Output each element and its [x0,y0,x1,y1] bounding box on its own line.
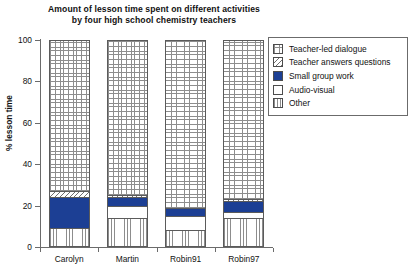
bar-segment [165,208,206,216]
bar-martin [107,40,148,247]
bar-robin97 [223,40,264,247]
legend-item: Teacher answers questions [273,56,403,70]
bar-segment [49,197,90,228]
bar-segment [107,218,148,247]
x-axis-tick [157,248,158,252]
y-axis-tick-label: 60 [6,118,32,128]
legend-swatch-white [273,85,283,95]
chart-title: Amount of lesson time spent on different… [24,4,284,25]
legend-label: Other [289,98,310,108]
bar-segment [107,40,148,195]
legend-swatch-vertical-lines [273,98,283,108]
legend-label: Small group work [289,71,354,81]
chart-legend: Teacher-led dialogueTeacher answers ques… [268,37,408,116]
x-axis-tick [98,248,99,252]
legend-label: Teacher-led dialogue [289,44,367,54]
x-axis-tick [273,248,274,252]
legend-item: Audio-visual [273,83,403,97]
chart-root: Amount of lesson time spent on different… [0,0,411,270]
bar-segment [49,228,90,247]
x-axis-label-robin97: Robin97 [228,254,259,264]
bar-robin91 [165,40,206,247]
legend-item: Other [273,96,403,110]
x-axis-tick [40,248,41,252]
bar-segment [165,216,206,230]
x-axis-tick [215,248,216,252]
y-axis-tick-label: 100 [6,35,32,45]
y-axis-tick-label: 40 [6,159,32,169]
bar-segment [49,191,90,197]
bar-segment [223,201,264,211]
bar-segment [223,212,264,218]
legend-item: Teacher-led dialogue [273,42,403,56]
bar-carolyn [49,40,90,247]
x-axis-label-carolyn: Carolyn [55,254,84,264]
chart-title-line-2: by four high school chemistry teachers [24,15,284,26]
legend-swatch-crosshatch-grid [273,44,283,54]
bar-segment [107,195,148,197]
bar-segment [165,40,206,208]
y-axis-tick-label: 20 [6,201,32,211]
legend-item: Small group work [273,69,403,83]
bar-segment [223,218,264,247]
plot-area [40,40,273,247]
chart-title-line-1: Amount of lesson time spent on different… [24,4,284,15]
bar-segment [107,197,148,205]
legend-swatch-diagonal-hatch [273,57,283,67]
legend-swatch-solid [273,71,283,81]
x-axis-label-martin: Martin [116,254,139,264]
bar-segment [107,206,148,218]
bar-segment [49,40,90,191]
bar-segment [165,230,206,247]
x-axis-label-robin91: Robin91 [170,254,201,264]
legend-label: Teacher answers questions [289,57,390,67]
y-axis-tick-label: 0 [6,242,32,252]
bar-segment [223,40,264,199]
bar-segment [223,199,264,201]
legend-label: Audio-visual [289,85,335,95]
y-axis-tick-label: 80 [6,76,32,86]
